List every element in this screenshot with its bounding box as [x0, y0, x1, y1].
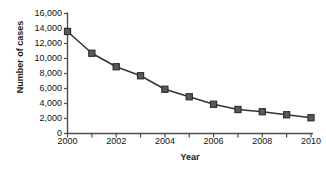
y-axis-tick-label: 12,000 [14, 39, 62, 48]
data-point-markers [64, 28, 314, 120]
y-axis-tick-label: 16,000 [14, 9, 62, 18]
data-point-marker [186, 94, 192, 100]
data-point-marker [137, 73, 143, 79]
data-point-marker [64, 28, 70, 34]
x-axis-tick-label: 2010 [294, 137, 326, 146]
x-axis-tick-label: 2000 [51, 137, 85, 146]
x-axis-tick-label: 2002 [99, 137, 133, 146]
data-point-marker [89, 50, 95, 56]
data-point-marker [284, 112, 290, 118]
data-point-marker [308, 115, 314, 121]
y-axis-tick-label: 8,000 [14, 69, 62, 78]
data-point-marker [211, 101, 217, 107]
y-axis-tick-label: 10,000 [14, 54, 62, 63]
data-point-marker [235, 106, 241, 112]
x-axis-title: Year [67, 152, 313, 162]
y-axis-tick-label: 14,000 [14, 24, 62, 33]
x-axis-tick-label: 2006 [197, 137, 231, 146]
data-point-marker [259, 109, 265, 115]
y-axis-tick-label: 4,000 [14, 99, 62, 108]
x-axis-tick-label: 2008 [245, 137, 279, 146]
chart-axes [68, 13, 314, 134]
data-point-marker [162, 86, 168, 92]
data-point-marker [113, 64, 119, 70]
y-axis-tick-label: 2,000 [14, 114, 62, 123]
x-axis-tick-label: 2004 [148, 137, 182, 146]
data-series-line [68, 32, 312, 118]
y-axis-tick-label: 6,000 [14, 84, 62, 93]
